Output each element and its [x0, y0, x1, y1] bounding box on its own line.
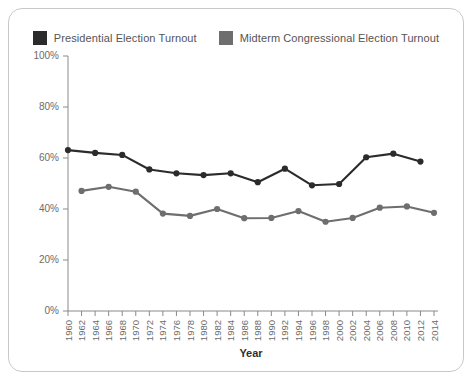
x-axis-tick-label: 1980 — [198, 320, 209, 341]
y-axis-tick-label: 20% — [39, 254, 59, 265]
x-axis-tick-label: 1986 — [239, 320, 250, 341]
chart-card: Presidential Election Turnout Midterm Co… — [8, 8, 464, 372]
data-point — [417, 158, 423, 164]
x-axis-tick-label: 2004 — [361, 320, 372, 341]
x-axis-tick-label: 2012 — [415, 320, 426, 341]
data-point — [282, 166, 288, 172]
series-layer — [65, 147, 437, 225]
data-point — [390, 151, 396, 157]
data-point — [92, 150, 98, 156]
data-point — [160, 210, 166, 216]
data-point — [431, 210, 437, 216]
y-axis-tick-label: 80% — [39, 101, 59, 112]
x-axis-tick-label: 1984 — [225, 320, 236, 341]
x-axis-tick-label: 2000 — [334, 320, 345, 341]
data-point — [228, 170, 234, 176]
plot-area: 100%80%60%40%20%0% 196019621964196619681… — [9, 9, 465, 373]
data-point — [200, 172, 206, 178]
data-point — [65, 147, 71, 153]
x-axis-tick-label: 1994 — [293, 320, 304, 341]
data-point — [363, 154, 369, 160]
data-point — [322, 219, 328, 225]
data-point — [309, 182, 315, 188]
data-point — [78, 188, 84, 194]
x-axis-tick-label: 1978 — [185, 320, 196, 341]
line-chart-svg: 100%80%60%40%20%0% 196019621964196619681… — [9, 9, 465, 373]
x-axis-tick-label: 1982 — [212, 320, 223, 341]
data-point — [173, 170, 179, 176]
data-point — [119, 152, 125, 158]
x-axis-tick-label: 1972 — [144, 320, 155, 341]
data-point — [214, 206, 220, 212]
x-axis-tick-label: 2014 — [429, 320, 440, 341]
y-axis-tick-label: 40% — [39, 203, 59, 214]
data-point — [187, 213, 193, 219]
data-point — [377, 205, 383, 211]
x-axis-tick-label: 2006 — [374, 320, 385, 341]
x-axis-tick-label: 1970 — [130, 320, 141, 341]
data-point — [295, 208, 301, 214]
x-axis-tick-label: 1992 — [279, 320, 290, 341]
data-point — [336, 181, 342, 187]
data-point — [268, 215, 274, 221]
x-axis-tick-label: 1962 — [76, 320, 87, 341]
x-axis-title: Year — [239, 347, 263, 359]
data-point — [241, 215, 247, 221]
x-axis-tick-label: 1996 — [307, 320, 318, 341]
x-axis-tick-label: 1960 — [63, 320, 74, 341]
x-axis-tick-label: 1998 — [320, 320, 331, 341]
y-axis-tick-label: 60% — [39, 152, 59, 163]
x-axis: 1960196219641966196819701972197419761978… — [63, 311, 440, 341]
x-axis-tick-label: 2010 — [401, 320, 412, 341]
x-axis-tick-label: 1974 — [157, 320, 168, 341]
data-point — [255, 179, 261, 185]
x-axis-tick-label: 1976 — [171, 320, 182, 341]
x-axis-tick-label: 1966 — [103, 320, 114, 341]
x-axis-tick-label: 1968 — [117, 320, 128, 341]
y-axis-tick-label: 100% — [33, 50, 59, 61]
x-axis-tick-label: 2008 — [388, 320, 399, 341]
y-axis-tick-label: 0% — [45, 305, 60, 316]
data-point — [146, 166, 152, 172]
data-point — [404, 203, 410, 209]
x-axis-tick-label: 2002 — [347, 320, 358, 341]
x-axis-tick-label: 1988 — [252, 320, 263, 341]
x-axis-tick-label: 1964 — [90, 320, 101, 341]
data-point — [133, 189, 139, 195]
y-axis: 100%80%60%40%20%0% — [33, 50, 68, 316]
data-point — [106, 184, 112, 190]
data-point — [350, 215, 356, 221]
x-axis-tick-label: 1990 — [266, 320, 277, 341]
